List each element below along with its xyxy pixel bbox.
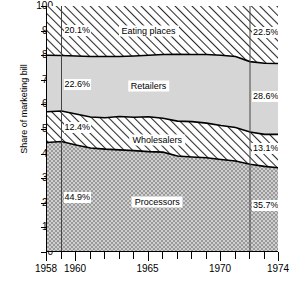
wholesalers-1959-pct: 12.4% — [64, 122, 92, 133]
x-tick-mark — [119, 252, 120, 259]
x-tick-mark — [104, 252, 105, 259]
x-tick-mark — [61, 252, 62, 259]
processors-1972-pct: 35.7% — [252, 200, 278, 211]
x-tick-label: 1974 — [267, 264, 289, 274]
x-tick-label: 1960 — [64, 264, 86, 274]
wholesalers-band-label: Wholesalers — [129, 135, 185, 146]
x-tick-mark — [220, 252, 221, 261]
x-tick-mark — [75, 252, 76, 261]
eating-places-band-label: Eating places — [118, 25, 178, 36]
x-tick-mark — [46, 252, 47, 261]
retailers-band-label: Retailers — [128, 80, 170, 91]
chart-container: Share of marketing bill 0102030405060708… — [0, 0, 292, 283]
x-tick-mark — [264, 252, 265, 259]
x-tick-mark — [177, 252, 178, 259]
x-tick-mark — [162, 252, 163, 259]
retailers-1959-pct: 22.6% — [64, 79, 92, 90]
eating-places-1972-pct: 22.5% — [252, 27, 278, 38]
retailers-1972-pct: 28.6% — [252, 91, 278, 102]
x-tick-label: 1970 — [209, 264, 231, 274]
processors-band-label: Processors — [132, 196, 183, 207]
processors-1959-pct: 44.9% — [64, 192, 92, 203]
wholesalers-1972-pct: 13.1% — [252, 143, 278, 154]
x-tick-mark — [90, 252, 91, 259]
x-tick-mark — [148, 252, 149, 261]
x-tick-label: 1965 — [136, 264, 158, 274]
x-tick-mark — [191, 252, 192, 259]
x-tick-mark — [206, 252, 207, 259]
x-tick-mark — [133, 252, 134, 259]
eating-places-1959-pct: 20.1% — [64, 25, 92, 36]
x-tick-mark — [235, 252, 236, 259]
x-tick-mark — [249, 252, 250, 259]
x-tick-label: 1958 — [35, 264, 57, 274]
x-tick-mark — [278, 252, 279, 261]
plot-area: Eating placesRetailersWholesalersProcess… — [46, 6, 278, 252]
